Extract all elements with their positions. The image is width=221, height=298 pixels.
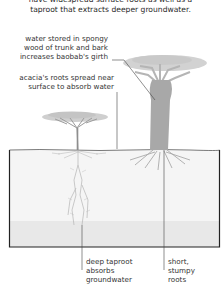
ground-cross-section: [10, 150, 220, 248]
label-line: stumpy: [168, 266, 218, 275]
label-line: increases baobab's girth: [6, 52, 108, 61]
label-line: surface to absorb water: [2, 82, 114, 91]
label-line: absorbs: [86, 266, 156, 275]
label-line: short,: [168, 257, 218, 266]
label-taproot: deep taproot absorbs groundwater: [86, 257, 156, 284]
label-acacia-roots: acacia's roots spread near surface to ab…: [2, 73, 114, 91]
label-line: deep taproot: [86, 257, 156, 266]
label-line: acacia's roots spread near: [2, 73, 114, 82]
label-stumpy-roots: short, stumpy roots: [168, 257, 218, 284]
label-line: wood of trunk and bark: [6, 43, 108, 52]
label-baobab-water: water stored in spongy wood of trunk and…: [6, 34, 108, 61]
groundwater-layer: [10, 221, 220, 247]
label-line: roots: [168, 275, 218, 284]
label-line: water stored in spongy: [6, 34, 108, 43]
label-line: groundwater: [86, 275, 156, 284]
